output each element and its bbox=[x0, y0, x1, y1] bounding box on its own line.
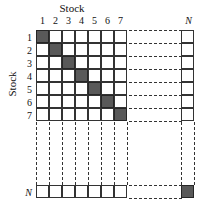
matrix-cell-1-n bbox=[181, 30, 194, 43]
dashed-gap-col-4-right bbox=[88, 122, 89, 185]
dashed-gap-row-2-bottom bbox=[129, 56, 182, 57]
matrix-cell-1-5 bbox=[88, 30, 101, 43]
dashed-gap-col-6-right bbox=[114, 122, 115, 185]
matrix-cell-6-3 bbox=[62, 95, 75, 108]
matrix-cell-2-5 bbox=[88, 43, 101, 56]
dashed-gap-col-n-right bbox=[194, 122, 195, 185]
column-tick-5: 5 bbox=[88, 16, 101, 26]
matrix-cell-2-4 bbox=[75, 43, 88, 56]
matrix-cell-4-1 bbox=[36, 69, 49, 82]
matrix-cell-6-2 bbox=[49, 95, 62, 108]
row-tick-1: 1 bbox=[20, 33, 32, 43]
column-tick-1: 1 bbox=[36, 16, 49, 26]
matrix-cell-4-4 bbox=[75, 69, 88, 82]
matrix-cell-3-5 bbox=[88, 56, 101, 69]
matrix-cell-5-7 bbox=[114, 82, 127, 95]
matrix-cell-1-3 bbox=[62, 30, 75, 43]
matrix-cell-7-n bbox=[181, 108, 194, 121]
row-tick-n: N bbox=[20, 188, 32, 198]
row-tick-5: 5 bbox=[20, 85, 32, 95]
dashed-gap-col-1-right bbox=[49, 122, 50, 185]
dashed-gap-row-3-bottom bbox=[129, 69, 182, 70]
row-tick-4: 4 bbox=[20, 72, 32, 82]
dashed-gap-row-n-bottom bbox=[129, 198, 182, 199]
matrix-cell-7-6 bbox=[101, 108, 114, 121]
matrix-cell-1-7 bbox=[114, 30, 127, 43]
matrix-cell-6-1 bbox=[36, 95, 49, 108]
matrix-cell-5-n bbox=[181, 82, 194, 95]
matrix-cell-2-n bbox=[181, 43, 194, 56]
column-axis-title: Stock bbox=[0, 2, 210, 14]
dashed-gap-row-6-bottom bbox=[129, 108, 182, 109]
matrix-cell-3-1 bbox=[36, 56, 49, 69]
row-tick-2: 2 bbox=[20, 46, 32, 56]
matrix-cell-6-7 bbox=[114, 95, 127, 108]
row-axis-title: Stock bbox=[6, 54, 18, 114]
column-tick-7: 7 bbox=[114, 16, 127, 26]
row-tick-3: 3 bbox=[20, 59, 32, 69]
matrix-cell-5-6 bbox=[101, 82, 114, 95]
matrix-cell-3-n bbox=[181, 56, 194, 69]
dashed-gap-row-1-top bbox=[129, 30, 182, 31]
matrix-cell-7-5 bbox=[88, 108, 101, 121]
row-tick-7: 7 bbox=[20, 111, 32, 121]
matrix-cell-7-1 bbox=[36, 108, 49, 121]
matrix-cell-1-2 bbox=[49, 30, 62, 43]
matrix-cell-4-5 bbox=[88, 69, 101, 82]
matrix-cell-6-n bbox=[181, 95, 194, 108]
matrix-cell-4-3 bbox=[62, 69, 75, 82]
dashed-gap-col-2-right bbox=[62, 122, 63, 185]
matrix-cell-5-4 bbox=[75, 82, 88, 95]
dashed-gap-col-1-left bbox=[36, 122, 37, 185]
dashed-gap-row-7-bottom bbox=[129, 121, 182, 122]
matrix-cell-3-4 bbox=[75, 56, 88, 69]
column-tick-4: 4 bbox=[75, 16, 88, 26]
matrix-cell-n-5 bbox=[88, 185, 101, 198]
matrix-cell-7-4 bbox=[75, 108, 88, 121]
matrix-cell-3-6 bbox=[101, 56, 114, 69]
matrix-cell-n-n bbox=[181, 185, 194, 198]
dashed-gap-row-5-bottom bbox=[129, 95, 182, 96]
dashed-gap-col-n-left bbox=[181, 122, 182, 185]
matrix-cell-4-2 bbox=[49, 69, 62, 82]
matrix-cell-n-6 bbox=[101, 185, 114, 198]
matrix-cell-n-2 bbox=[49, 185, 62, 198]
matrix-cell-6-5 bbox=[88, 95, 101, 108]
dashed-gap-row-4-bottom bbox=[129, 82, 182, 83]
matrix-cell-n-7 bbox=[114, 185, 127, 198]
dashed-gap-col-7-right bbox=[127, 122, 128, 185]
matrix-cell-7-3 bbox=[62, 108, 75, 121]
dashed-gap-row-n-top bbox=[129, 185, 182, 186]
column-tick-2: 2 bbox=[49, 16, 62, 26]
matrix-cell-5-3 bbox=[62, 82, 75, 95]
dashed-gap-col-5-right bbox=[101, 122, 102, 185]
matrix-cell-3-2 bbox=[49, 56, 62, 69]
matrix-cell-5-5 bbox=[88, 82, 101, 95]
matrix-cell-5-1 bbox=[36, 82, 49, 95]
dashed-gap-row-1-bottom bbox=[129, 43, 182, 44]
column-tick-n: N bbox=[182, 16, 195, 26]
matrix-cell-4-n bbox=[181, 69, 194, 82]
matrix-cell-6-6 bbox=[101, 95, 114, 108]
matrix-diagram: Stock Stock 1 2 3 4 5 6 7 N 1 2 3 4 5 6 … bbox=[0, 0, 210, 215]
matrix-cell-3-3 bbox=[62, 56, 75, 69]
matrix-cell-2-6 bbox=[101, 43, 114, 56]
matrix-cell-n-1 bbox=[36, 185, 49, 198]
matrix-cell-n-4 bbox=[75, 185, 88, 198]
matrix-cell-n-3 bbox=[62, 185, 75, 198]
matrix-cell-4-7 bbox=[114, 69, 127, 82]
matrix-cell-7-2 bbox=[49, 108, 62, 121]
matrix-cell-6-4 bbox=[75, 95, 88, 108]
row-tick-6: 6 bbox=[20, 98, 32, 108]
matrix-cell-4-6 bbox=[101, 69, 114, 82]
matrix-cell-1-6 bbox=[101, 30, 114, 43]
matrix-cell-2-3 bbox=[62, 43, 75, 56]
column-tick-3: 3 bbox=[62, 16, 75, 26]
matrix-cell-3-7 bbox=[114, 56, 127, 69]
matrix-cell-2-2 bbox=[49, 43, 62, 56]
matrix-cell-2-7 bbox=[114, 43, 127, 56]
matrix-cell-1-4 bbox=[75, 30, 88, 43]
matrix-cell-1-1 bbox=[36, 30, 49, 43]
matrix-cell-7-7 bbox=[114, 108, 127, 121]
dashed-gap-col-3-right bbox=[75, 122, 76, 185]
